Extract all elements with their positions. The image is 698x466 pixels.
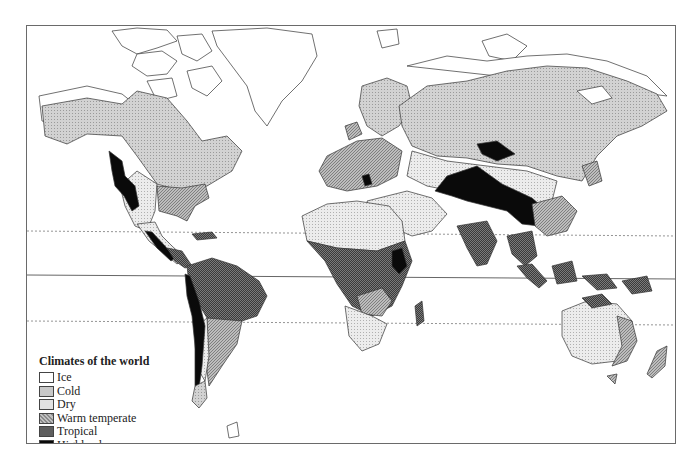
svalbard: [377, 29, 399, 48]
asia: [367, 54, 667, 266]
europe: [319, 78, 412, 191]
caribbean-islands: [192, 232, 217, 240]
legend-item-tropical: Tropical: [39, 425, 149, 439]
legend-item-highland: Highland: [39, 439, 149, 445]
legend-label: Highland: [57, 438, 102, 444]
legend-swatch-highland: [39, 440, 54, 444]
southeast-asia-islands: [517, 261, 652, 294]
legend-swatch-ice: [39, 372, 54, 383]
legend-swatch-dry: [39, 399, 54, 410]
legend-item-dry: Dry: [39, 398, 149, 412]
new-zealand: [647, 346, 667, 378]
legend-swatch-tropical: [39, 426, 54, 437]
legend-swatch-warm-temperate: [39, 413, 54, 424]
world-climate-map: Climates of the world Ice Cold Dry Warm …: [26, 25, 676, 444]
legend-item-warm-temperate: Warm temperate: [39, 412, 149, 426]
legend-swatch-cold: [39, 386, 54, 397]
legend-item-ice: Ice: [39, 371, 149, 385]
legend-title: Climates of the world: [39, 354, 149, 369]
legend-item-cold: Cold: [39, 385, 149, 399]
south-georgia: [227, 422, 239, 438]
north-america: [39, 86, 242, 268]
arctic-islands: [112, 28, 222, 101]
greenland: [212, 28, 317, 126]
australia: [562, 294, 637, 384]
south-america: [185, 258, 267, 408]
map-legend: Climates of the world Ice Cold Dry Warm …: [39, 354, 149, 444]
